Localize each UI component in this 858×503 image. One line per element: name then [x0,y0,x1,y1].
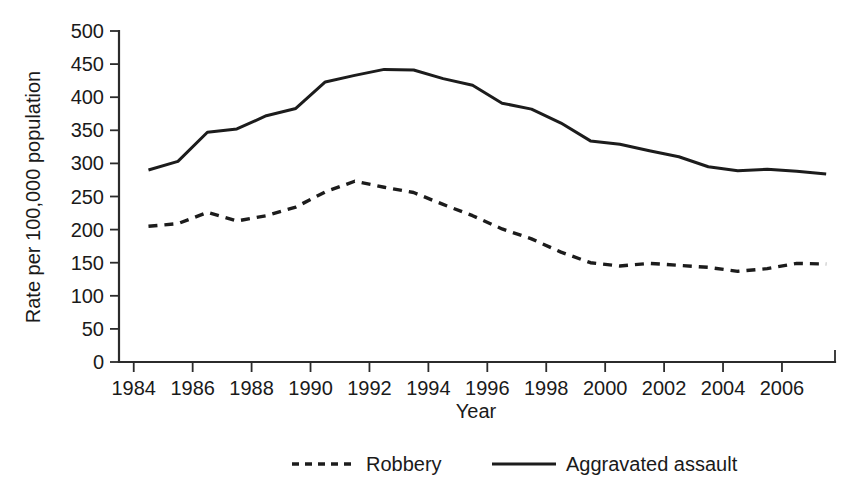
x-tick-label: 2000 [583,377,628,399]
y-tick-label: 0 [93,351,104,373]
x-tick-label: 1984 [111,377,156,399]
y-tick-label: 350 [71,119,104,141]
y-axis: 050100150200250300350400450500 [71,20,119,373]
y-tick-label: 200 [71,219,104,241]
x-tick-label: 1996 [465,377,510,399]
x-tick-label: 2004 [701,377,746,399]
series-line-aggravated-assault [148,69,826,174]
y-axis-title: Rate per 100,000 population [22,71,44,323]
x-tick-label: 1992 [347,377,392,399]
x-tick-label: 1998 [524,377,569,399]
y-tick-label: 400 [71,86,104,108]
x-tick-label: 1990 [288,377,333,399]
series-line-robbery [148,181,826,271]
chart-legend: RobberyAggravated assault [292,453,738,475]
y-tick-label: 250 [71,186,104,208]
x-axis: 1984198619881990199219941996199820002002… [111,350,835,399]
x-tick-label: 2006 [760,377,805,399]
x-tick-label: 1988 [229,377,274,399]
data-series-group [148,69,826,271]
y-tick-label: 150 [71,252,104,274]
y-tick-label: 300 [71,152,104,174]
y-tick-label: 500 [71,20,104,42]
legend-label-aggravated-assault: Aggravated assault [566,453,738,475]
x-tick-label: 2002 [642,377,687,399]
x-axis-title: Year [456,400,497,422]
y-tick-label: 50 [82,318,104,340]
line-chart: 050100150200250300350400450500 198419861… [0,0,858,503]
x-tick-label: 1986 [170,377,215,399]
x-tick-label: 1994 [406,377,451,399]
y-tick-label: 450 [71,53,104,75]
chart-container: 050100150200250300350400450500 198419861… [0,0,858,503]
legend-label-robbery: Robbery [366,453,442,475]
y-tick-label: 100 [71,285,104,307]
